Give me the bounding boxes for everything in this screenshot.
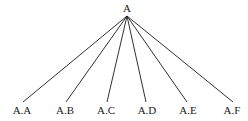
child-nodes: A.A A.B A.C A.D A.E A.F	[13, 104, 241, 116]
child-node-label-ad: A.D	[138, 104, 157, 116]
edges	[23, 16, 233, 102]
child-node-label-ae: A.E	[179, 104, 197, 116]
edge-a-to-ac	[107, 16, 127, 102]
child-node-label-af: A.F	[224, 104, 241, 116]
child-node-label-aa: A.A	[13, 104, 32, 116]
root-node-label: A	[123, 2, 131, 14]
child-node-label-ab: A.B	[56, 104, 74, 116]
edge-a-to-ae	[127, 16, 187, 102]
tree-diagram: A A.A A.B A.C A.D A.E A.F	[0, 0, 248, 121]
child-node-label-ac: A.C	[97, 104, 115, 116]
